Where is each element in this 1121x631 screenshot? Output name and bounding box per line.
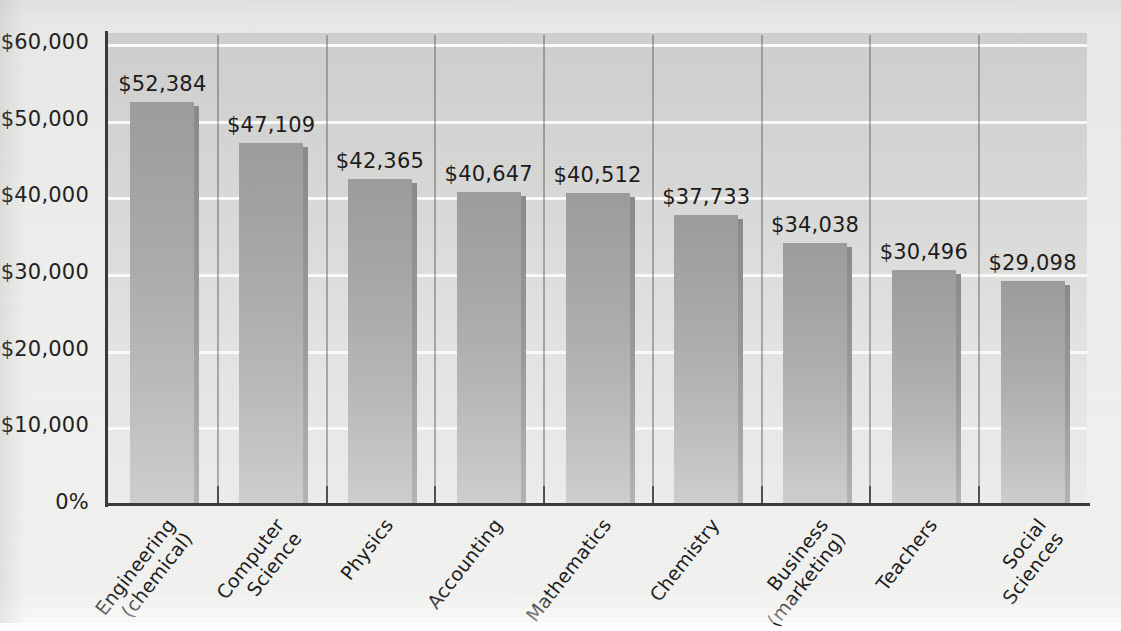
bar [1001, 281, 1065, 504]
bar-shadow [630, 197, 635, 504]
category-divider [434, 35, 436, 504]
bar [566, 193, 630, 504]
category-label: Chemistry [614, 514, 724, 631]
plot-area [108, 33, 1087, 504]
y-axis-tick-label: $10,000 [0, 413, 89, 437]
x-axis-line [105, 503, 1090, 506]
bar-shadow [956, 274, 961, 504]
bar-shadow [847, 247, 852, 504]
y-axis-tick-label: 0% [0, 490, 89, 514]
y-axis-tick-label: $20,000 [0, 337, 89, 361]
bar-shadow [303, 147, 308, 504]
category-label-line: Teachers [871, 514, 941, 595]
category-label: Business(marketing) [723, 514, 851, 631]
bar-shadow [521, 196, 526, 504]
category-label-line: Chemistry [645, 514, 723, 606]
y-axis-tick-label: $30,000 [0, 260, 89, 284]
category-divider [217, 35, 219, 504]
category-label-line: Mathematics [521, 514, 615, 626]
bar-shadow [194, 106, 199, 504]
bar [239, 143, 303, 504]
bar-shadow [412, 183, 417, 504]
bar-shadow [738, 219, 743, 504]
category-label: Physics [288, 514, 398, 631]
bar-value-label: $37,733 [646, 185, 766, 209]
bar-value-label: $40,647 [429, 162, 549, 186]
bar-value-label: $40,512 [538, 163, 658, 187]
category-label: SocialSciences [940, 514, 1068, 631]
bar [783, 243, 847, 504]
y-axis-tick-label: $50,000 [0, 107, 89, 131]
category-divider [869, 35, 871, 504]
y-axis-tick-label: $40,000 [0, 183, 89, 207]
bar [457, 192, 521, 504]
category-label: Accounting [396, 514, 506, 631]
bar-value-label: $29,098 [973, 251, 1093, 275]
category-label: ComputerScience [179, 514, 307, 631]
bar-value-label: $34,038 [755, 213, 875, 237]
y-axis-tick-label: $60,000 [0, 30, 89, 54]
category-label-line: Accounting [422, 514, 506, 613]
gridline [108, 44, 1087, 47]
y-axis-line [105, 31, 108, 507]
bar-value-label: $52,384 [102, 72, 222, 96]
category-divider [761, 35, 763, 504]
bar [348, 179, 412, 504]
bar [892, 270, 956, 504]
category-divider [652, 35, 654, 504]
category-label: Teachers [831, 514, 941, 631]
category-label: Engineering(chemical) [70, 514, 198, 631]
category-label-line: Physics [336, 514, 397, 584]
category-divider [543, 35, 545, 504]
bar-value-label: $30,496 [864, 240, 984, 264]
bar-shadow [1065, 285, 1070, 504]
bar [674, 215, 738, 504]
bar-value-label: $42,365 [320, 149, 440, 173]
bar-value-label: $47,109 [211, 113, 331, 137]
category-divider [326, 35, 328, 504]
category-label: Mathematics [505, 514, 615, 631]
bar [130, 102, 194, 504]
